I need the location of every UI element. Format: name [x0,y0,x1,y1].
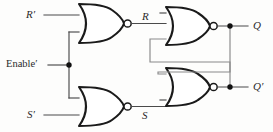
nor-gate-top-left [79,4,124,43]
inversion-bubble-top-right [210,22,217,29]
label-node-r: R [142,11,149,22]
nor-gate-bottom-left [79,87,124,126]
label-input-enable-not: Enable′ [6,59,37,70]
junction-q-not [227,84,232,89]
junction-q [227,23,232,28]
nor-gate-bottom-right [166,68,210,106]
inversion-bubble-bottom-left [124,103,131,110]
junction-enable [66,62,71,67]
label-input-r-not: R′ [26,9,35,20]
inversion-bubble-bottom-right [210,83,217,90]
label-output-q-not: Q′ [253,81,263,92]
nor-gate-top-right [166,7,210,45]
inversion-bubble-top-left [124,20,131,27]
logic-circuit-diagram: R′ Enable′ S′ R S Q Q′ [0,0,273,132]
label-node-s: S [142,110,148,121]
label-input-s-not: S′ [27,109,35,120]
label-output-q: Q [253,20,261,31]
circuit-schematic-canvas [0,0,273,132]
